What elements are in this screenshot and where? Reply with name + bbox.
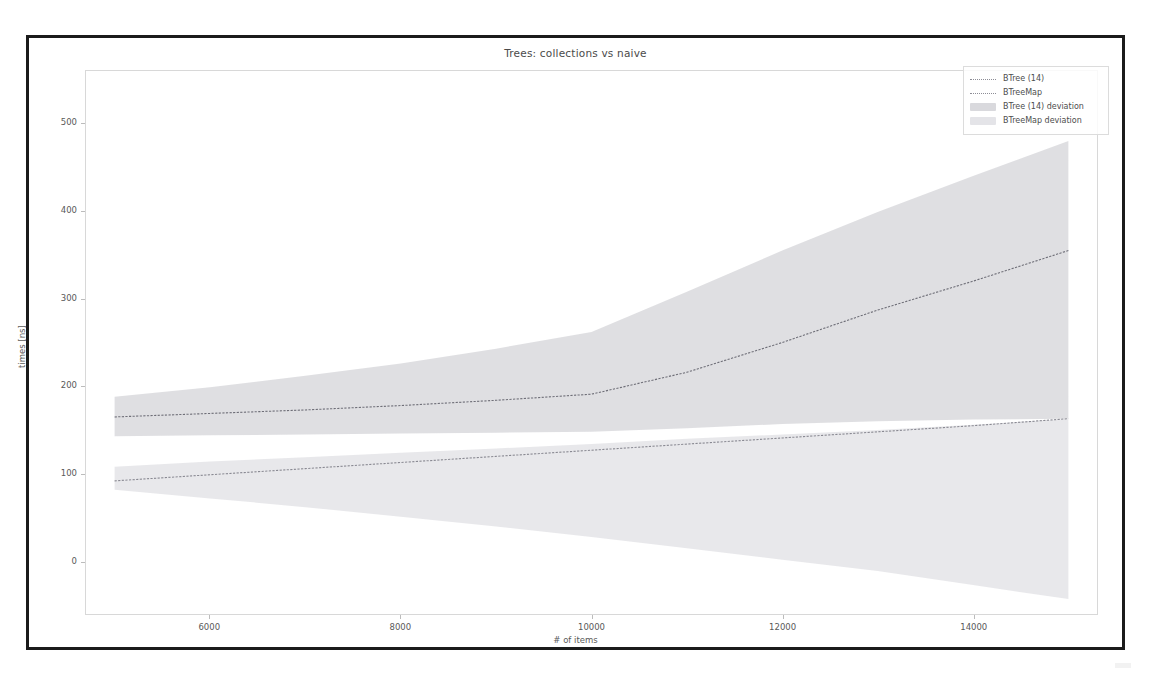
matplotlib-figure: Trees: collections vs naive times [ns] #… [29, 38, 1122, 647]
deviation-band-btree-14-deviation [115, 141, 1069, 436]
y-tick-100: 100 [43, 468, 77, 478]
x-tick-mark-8000 [400, 615, 401, 619]
legend-entry-2[interactable]: BTree (14) deviation [970, 100, 1102, 114]
chart-legend: BTree (14)BTreeMapBTree (14) deviationBT… [963, 66, 1109, 135]
x-tick-10000: 10000 [562, 622, 622, 632]
x-axis-label: # of items [29, 635, 1122, 645]
y-tick-400: 400 [43, 205, 77, 215]
deviation-bands [115, 141, 1069, 599]
chart-title: Trees: collections vs naive [29, 47, 1122, 59]
legend-swatch-icon [970, 117, 996, 125]
screenshot-root: Trees: collections vs naive times [ns] #… [0, 0, 1155, 682]
x-tick-mark-12000 [783, 615, 784, 619]
deviation-band-btreemap-deviation [115, 419, 1069, 599]
legend-entry-3[interactable]: BTreeMap deviation [970, 114, 1102, 128]
legend-label: BTreeMap deviation [1003, 116, 1082, 126]
x-tick-6000: 6000 [179, 622, 239, 632]
x-tick-8000: 8000 [370, 622, 430, 632]
y-tick-0: 0 [43, 556, 77, 566]
scan-artifact [1115, 663, 1131, 668]
legend-label: BTree (14) deviation [1003, 102, 1084, 112]
y-axis-label: times [ns] [17, 325, 27, 368]
printed-page-frame: Trees: collections vs naive times [ns] #… [26, 35, 1125, 650]
legend-swatch-icon [970, 103, 996, 111]
legend-label: BTreeMap [1003, 88, 1042, 98]
plot-canvas [86, 71, 1097, 614]
x-tick-mark-10000 [592, 615, 593, 619]
legend-label: BTree (14) [1003, 74, 1044, 84]
legend-entry-0[interactable]: BTree (14) [970, 72, 1102, 86]
legend-swatch-icon [970, 75, 996, 84]
y-tick-300: 300 [43, 293, 77, 303]
legend-entry-1[interactable]: BTreeMap [970, 86, 1102, 100]
x-tick-12000: 12000 [753, 622, 813, 632]
legend-swatch-icon [970, 89, 996, 98]
x-tick-mark-6000 [209, 615, 210, 619]
y-tick-500: 500 [43, 117, 77, 127]
x-tick-14000: 14000 [944, 622, 1004, 632]
y-tick-200: 200 [43, 380, 77, 390]
plot-area [85, 70, 1098, 615]
x-tick-mark-14000 [974, 615, 975, 619]
